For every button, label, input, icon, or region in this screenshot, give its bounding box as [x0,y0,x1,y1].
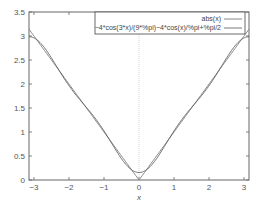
y-axis: 00.511.522.533.5 [14,8,249,185]
legend: abs(x) −4*cos(3*x)/(9*%pi)−4*cos(x)/%pi+… [95,12,245,34]
line-chart: 00.511.522.533.5 −3−2−10123 abs(x) −4*co… [0,0,262,205]
y-tick-label: 1.5 [14,104,26,113]
y-tick-label: 0 [21,176,26,185]
legend-label-abs: abs(x) [202,15,221,23]
x-tick-label: −3 [29,183,39,192]
y-tick-label: 3.5 [14,8,26,17]
x-tick-label: 0 [137,183,142,192]
y-tick-label: 2 [21,80,26,89]
x-tick-label: 1 [172,183,177,192]
legend-label-fourier: −4*cos(3*x)/(9*%pi)−4*cos(x)/%pi+%pi/2 [95,24,221,32]
x-tick-label: −2 [64,183,74,192]
y-tick-label: 0.5 [14,152,26,161]
x-tick-label: 2 [207,183,212,192]
x-tick-label: 3 [242,183,247,192]
y-tick-label: 3 [21,32,26,41]
x-axis: −3−2−10123 [29,12,246,192]
y-tick-label: 2.5 [14,56,26,65]
x-tick-label: −1 [99,183,109,192]
y-tick-label: 1 [21,128,26,137]
x-axis-label: x [136,193,142,202]
